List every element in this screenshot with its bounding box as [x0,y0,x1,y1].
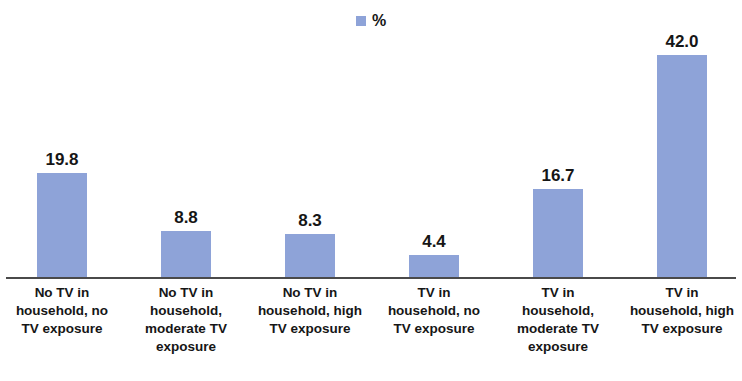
category-label-line: No TV in [126,284,246,302]
category-label-line: household, high [622,302,742,320]
category-label-line: household, [498,302,618,320]
bar-value-label-2: 8.3 [298,212,322,229]
x-axis-category-labels: No TV inhousehold, noTV exposure No TV i… [0,284,742,381]
bar-0 [37,173,87,278]
category-label-line: TV in [622,284,742,302]
legend-label: % [372,13,386,29]
bar-value-label-3: 4.4 [422,233,446,250]
category-label-3: TV inhousehold, noTV exposure [372,284,496,338]
bar-1 [161,231,211,278]
bar-value-label-1: 8.8 [174,209,198,226]
category-label-4: TV inhousehold,moderate TVexposure [496,284,620,356]
category-label-5: TV inhousehold, highTV exposure [620,284,742,338]
bar-value-label-4: 16.7 [541,167,574,184]
category-label-0: No TV inhousehold, noTV exposure [0,284,124,338]
category-label-line: household, no [374,302,494,320]
category-label-2: No TV inhousehold, highTV exposure [248,284,372,338]
bar-5 [657,55,707,278]
legend-swatch-icon [356,16,366,26]
bar-value-label-0: 19.8 [45,151,78,168]
bar-3 [409,255,459,278]
category-label-1: No TV inhousehold,moderate TVexposure [124,284,248,356]
bar-value-label-5: 42.0 [665,33,698,50]
category-label-line: exposure [498,338,618,356]
category-label-line: TV exposure [250,320,370,338]
bar-4 [533,189,583,278]
category-label-line: No TV in [2,284,122,302]
bar-slot-5: 42.0 [620,34,742,278]
category-label-line: TV exposure [374,320,494,338]
category-label-line: household, high [250,302,370,320]
bar-slot-1: 8.8 [124,34,248,278]
bar-slot-0: 19.8 [0,34,124,278]
category-label-line: exposure [126,338,246,356]
chart-legend: % [0,8,742,34]
category-label-line: TV exposure [2,320,122,338]
legend-entry-percent: % [356,13,386,29]
bar-slot-3: 4.4 [372,34,496,278]
category-label-line: moderate TV [126,320,246,338]
category-label-line: household, [126,302,246,320]
category-label-line: moderate TV [498,320,618,338]
x-axis-line [6,277,736,279]
category-label-line: TV exposure [622,320,742,338]
bar-slot-2: 8.3 [248,34,372,278]
bar-slot-4: 16.7 [496,34,620,278]
category-label-line: No TV in [250,284,370,302]
category-label-line: TV in [498,284,618,302]
category-label-line: household, no [2,302,122,320]
bar-2 [285,234,335,278]
bar-chart: % 19.8 8.8 8.3 4.4 16.7 42.0 No TV [0,0,742,381]
plot-area: 19.8 8.8 8.3 4.4 16.7 42.0 [0,34,742,278]
category-label-line: TV in [374,284,494,302]
